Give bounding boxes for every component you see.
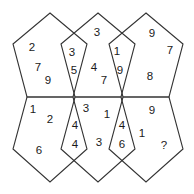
- number-label: 1: [30, 103, 36, 115]
- number-label: 3: [94, 26, 100, 38]
- pentagon-group: [13, 13, 183, 182]
- number-label: 4: [119, 119, 126, 131]
- number-label: 6: [36, 144, 42, 156]
- unknown-value-label: ?: [161, 139, 167, 151]
- number-label: 1: [104, 108, 110, 120]
- number-label: 4: [72, 119, 79, 131]
- number-label: 7: [35, 61, 41, 73]
- number-label: 9: [149, 104, 155, 116]
- pentagon-puzzle-diagram: 2793534719978126443134691?: [0, 0, 194, 194]
- number-labels: 2793534719978126443134691?: [29, 26, 173, 156]
- number-label: 1: [139, 127, 145, 139]
- number-label: 8: [147, 70, 153, 82]
- number-label: 2: [29, 41, 35, 53]
- number-label: 5: [71, 64, 77, 76]
- number-label: 6: [119, 138, 125, 150]
- number-label: 4: [72, 138, 79, 150]
- number-label: 9: [149, 27, 155, 39]
- number-label: 9: [117, 64, 123, 76]
- number-label: 1: [114, 45, 120, 57]
- number-label: 7: [101, 74, 107, 86]
- number-label: 3: [83, 102, 89, 114]
- number-label: 9: [45, 74, 51, 86]
- number-label: 2: [47, 113, 53, 125]
- number-label: 3: [69, 46, 75, 58]
- number-label: 4: [91, 61, 98, 73]
- number-label: 7: [167, 44, 173, 56]
- number-label: 3: [96, 136, 102, 148]
